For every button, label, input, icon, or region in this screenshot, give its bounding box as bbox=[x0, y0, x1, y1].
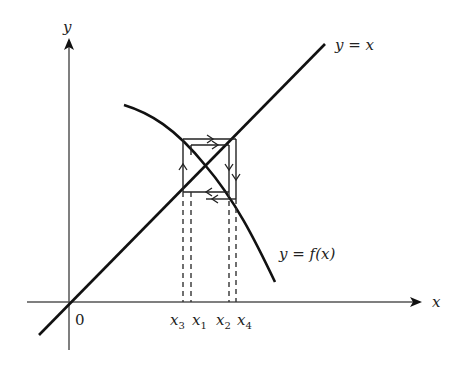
axes bbox=[27, 40, 420, 350]
identity-line-label: y = x bbox=[334, 36, 375, 54]
x-tick-labels: x3 x1 x2 x4 bbox=[170, 311, 252, 331]
y-axis-label: y bbox=[62, 18, 72, 36]
cobweb-diagram: y x 0 y = x y = f(x) x3 x1 x2 x4 bbox=[0, 0, 458, 373]
origin-label: 0 bbox=[75, 311, 85, 329]
tick-x1: x1 bbox=[192, 311, 207, 331]
x-axis-label: x bbox=[432, 293, 441, 311]
function-curve-label: y = f(x) bbox=[278, 245, 335, 263]
projection-lines bbox=[183, 192, 236, 302]
tick-x3: x3 bbox=[170, 311, 185, 331]
identity-line bbox=[39, 44, 325, 335]
function-curve bbox=[124, 105, 275, 282]
tick-x4: x4 bbox=[237, 311, 252, 331]
tick-x2: x2 bbox=[216, 311, 231, 331]
